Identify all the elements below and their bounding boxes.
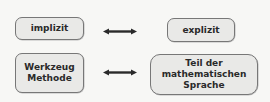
- box-label-line: Sprache: [162, 80, 247, 91]
- box-label-line: Methode: [24, 73, 74, 84]
- box-label: implizit: [31, 23, 69, 34]
- box-label-line: Werkzeug: [24, 62, 74, 73]
- double-arrow-icon: [103, 69, 137, 76]
- box-explizit: explizit: [167, 18, 235, 42]
- box-werkzeug-methode: Werkzeug Methode: [15, 53, 84, 93]
- box-label-line: mathematischen: [162, 69, 247, 80]
- double-arrow-icon: [103, 28, 137, 35]
- box-implizit: implizit: [15, 17, 84, 40]
- box-label: explizit: [182, 25, 219, 36]
- diagram-canvas: implizit explizit Werkzeug Methode Teil …: [0, 0, 270, 102]
- box-label-line: Teil der: [162, 58, 247, 69]
- box-teil-der-mathematischen-sprache: Teil der mathematischen Sprache: [150, 54, 258, 95]
